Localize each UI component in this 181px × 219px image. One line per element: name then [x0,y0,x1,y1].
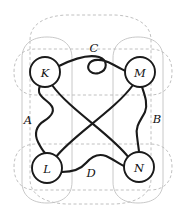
edge-K-L [36,86,53,153]
node-M-label: M [133,66,147,80]
diagram-canvas: K M L N A B C D [0,0,181,219]
region-label-C: C [90,41,99,55]
edge-M-N [137,87,147,152]
node-L-label: L [42,162,51,176]
graph-diagram: K M L N A B C D [0,0,181,219]
edge-M-L [56,85,133,157]
node-K[interactable]: K [30,57,60,87]
node-L[interactable]: L [32,153,62,183]
graph-nodes: K M L N [30,57,155,183]
region-label-B: B [152,112,161,126]
node-N-label: N [133,161,145,175]
region-label-D: D [85,166,95,180]
region-label-A: A [23,113,32,127]
node-M[interactable]: M [125,57,155,87]
node-N[interactable]: N [124,152,154,182]
edge-K-N [52,85,129,158]
node-K-label: K [40,66,51,80]
edge-K-M [59,56,131,74]
